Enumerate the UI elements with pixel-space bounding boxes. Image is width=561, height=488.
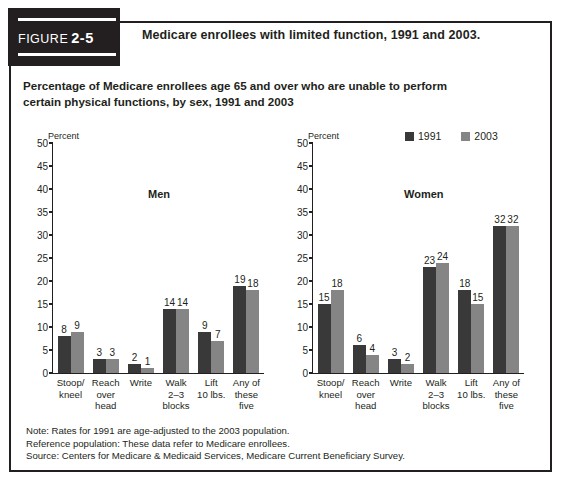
plot-area-men: 0510152025303540455089Stoop/ kneel33Reac… — [52, 143, 264, 374]
figure-notes: Note: Rates for 1991 are age-adjusted to… — [26, 425, 405, 463]
category-label: Reach over head — [348, 377, 383, 412]
chart-women: Percent 051015202530354045501518Stoop/ k… — [286, 131, 536, 416]
bar-2003: 3 — [106, 359, 119, 373]
figure-number: 2-5 — [71, 30, 93, 46]
bar-value-label: 24 — [437, 251, 448, 262]
bar-value-label: 14 — [177, 297, 188, 308]
bar-group: 3232Any of these five — [489, 143, 524, 373]
bar-2003: 4 — [366, 355, 379, 373]
bar-value-label: 23 — [424, 255, 435, 266]
bar-value-label: 32 — [507, 214, 518, 225]
note-line: Note: Rates for 1991 are age-adjusted to… — [26, 425, 405, 438]
bar-value-label: 3 — [96, 347, 102, 358]
bar-2003: 2 — [401, 364, 414, 373]
bar-2003: 32 — [506, 226, 519, 373]
bar-group: 1815Lift 10 lbs. — [454, 143, 489, 373]
bar-1991: 18 — [458, 290, 471, 373]
figure-number-tab: FIGURE2-5 — [8, 8, 120, 66]
category-label: Write — [383, 377, 418, 389]
bar-1991: 15 — [318, 304, 331, 373]
bar-2003: 18 — [246, 290, 259, 373]
bar-value-label: 32 — [494, 214, 505, 225]
plot-area-women: 051015202530354045501518Stoop/ kneel64Re… — [312, 143, 524, 374]
bar-value-label: 8 — [61, 324, 67, 335]
bar-group: 1414Walk 2–3 blocks — [159, 143, 194, 373]
bar-1991: 14 — [163, 309, 176, 373]
category-label: Stoop/ kneel — [313, 377, 348, 400]
bar-value-label: 9 — [202, 320, 208, 331]
figure-label: FIGURE — [18, 32, 68, 46]
bar-1991: 3 — [388, 359, 401, 373]
bar-value-label: 2 — [405, 352, 411, 363]
figure-tab-rule-top — [18, 18, 116, 21]
bar-1991: 32 — [493, 226, 506, 373]
chart-subtitle: Percentage of Medicare enrollees age 65 … — [23, 78, 483, 110]
bar-value-label: 4 — [369, 343, 375, 354]
bar-group: 97Lift 10 lbs. — [194, 143, 229, 373]
bar-value-label: 18 — [332, 278, 343, 289]
bar-group: 1918Any of these five — [229, 143, 264, 373]
bar-1991: 9 — [198, 332, 211, 373]
bar-group: 32Write — [383, 143, 418, 373]
category-label: Any of these five — [489, 377, 524, 412]
bar-value-label: 9 — [74, 320, 80, 331]
bar-value-label: 15 — [472, 292, 483, 303]
bar-1991: 6 — [353, 345, 366, 373]
bar-group: 1518Stoop/ kneel — [313, 143, 348, 373]
bar-group: 2324Walk 2–3 blocks — [419, 143, 454, 373]
bar-group: 64Reach over head — [348, 143, 383, 373]
figure-tab-rule-bottom — [18, 53, 116, 56]
bar-value-label: 18 — [459, 278, 470, 289]
bar-2003: 1 — [141, 368, 154, 373]
bar-value-label: 15 — [319, 292, 330, 303]
category-label: Lift 10 lbs. — [454, 377, 489, 400]
bar-2003: 14 — [176, 309, 189, 373]
bar-1991: 19 — [233, 286, 246, 373]
bar-value-label: 18 — [247, 278, 258, 289]
category-label: Reach over head — [88, 377, 123, 412]
bar-value-label: 3 — [392, 347, 398, 358]
note-line: Source: Centers for Medicare & Medicaid … — [26, 450, 405, 463]
bar-value-label: 7 — [215, 329, 221, 340]
bar-group: 89Stoop/ kneel — [53, 143, 88, 373]
bar-2003: 24 — [436, 263, 449, 373]
category-label: Write — [123, 377, 158, 389]
category-label: Lift 10 lbs. — [194, 377, 229, 400]
category-label: Walk 2–3 blocks — [419, 377, 454, 412]
category-label: Stoop/ kneel — [53, 377, 88, 400]
bar-value-label: 19 — [234, 274, 245, 285]
bar-2003: 9 — [71, 332, 84, 373]
bar-value-label: 3 — [109, 347, 115, 358]
bar-1991: 8 — [58, 336, 71, 373]
figure-page: FIGURE2-5 Medicare enrollees with limite… — [0, 0, 561, 488]
figure-tab-text: FIGURE2-5 — [18, 30, 94, 46]
bar-value-label: 6 — [356, 333, 362, 344]
figure-title: Medicare enrollees with limited function… — [142, 28, 480, 42]
bar-value-label: 2 — [132, 352, 138, 363]
bar-2003: 15 — [471, 304, 484, 373]
chart-men: Percent 0510152025303540455089Stoop/ kne… — [26, 131, 276, 416]
bar-group: 33Reach over head — [88, 143, 123, 373]
bar-value-label: 1 — [145, 356, 151, 367]
category-label: Walk 2–3 blocks — [159, 377, 194, 412]
bar-2003: 18 — [331, 290, 344, 373]
note-line: Reference population: These data refer t… — [26, 438, 405, 451]
bar-1991: 2 — [128, 364, 141, 373]
bar-1991: 3 — [93, 359, 106, 373]
bar-value-label: 14 — [164, 297, 175, 308]
bar-group: 21Write — [123, 143, 158, 373]
category-label: Any of these five — [229, 377, 264, 412]
bar-2003: 7 — [211, 341, 224, 373]
bar-1991: 23 — [423, 267, 436, 373]
